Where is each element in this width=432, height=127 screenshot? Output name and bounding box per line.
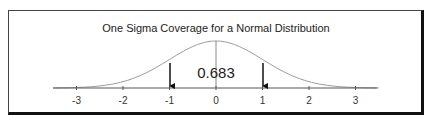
x-tick-label: 2	[306, 95, 312, 106]
x-tick-label: -3	[72, 95, 81, 106]
coverage-value: 0.683	[197, 64, 235, 81]
x-tick-label: 1	[260, 95, 266, 106]
chart-title: One Sigma Coverage for a Normal Distribu…	[102, 22, 329, 34]
x-tick-label: 3	[353, 95, 359, 106]
x-ticks: -3-2-10123	[72, 86, 359, 106]
x-tick-label: -1	[165, 95, 174, 106]
x-tick-label: 0	[213, 95, 219, 106]
normal-distribution-chart: One Sigma Coverage for a Normal Distribu…	[0, 0, 432, 127]
x-tick-label: -2	[119, 95, 128, 106]
